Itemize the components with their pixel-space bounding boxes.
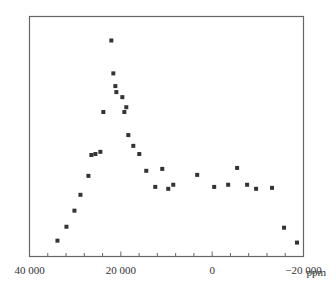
data-point (124, 105, 128, 109)
data-point (212, 185, 216, 189)
data-point (114, 90, 118, 94)
x-tick-label: 0 (209, 264, 215, 276)
data-point (131, 144, 135, 148)
data-point (109, 39, 113, 43)
data-point (93, 152, 97, 156)
data-point (282, 226, 286, 230)
data-point (226, 183, 230, 187)
data-point (270, 186, 274, 190)
data-point (126, 133, 130, 137)
data-point (295, 241, 299, 245)
data-point (144, 169, 148, 173)
data-point (55, 239, 59, 243)
data-point (235, 166, 239, 170)
x-axis-tick-labels: 40 00020 0000−20 000 (14, 264, 322, 276)
scatter-chart: 40 00020 0000−20 000 ppm (0, 0, 335, 302)
data-point (166, 187, 170, 191)
data-point (101, 110, 105, 114)
data-point (78, 193, 82, 197)
data-point (254, 187, 258, 191)
x-tick-label: 40 000 (14, 264, 45, 276)
data-point (86, 174, 90, 178)
data-point (72, 209, 76, 213)
data-point (98, 150, 102, 154)
data-point (113, 84, 117, 88)
x-tick-label: 20 000 (106, 264, 137, 276)
data-point (89, 153, 93, 157)
data-point (111, 71, 115, 75)
data-point (64, 225, 68, 229)
data-point (171, 183, 175, 187)
data-point (137, 152, 141, 156)
data-point (120, 95, 124, 99)
data-point (153, 185, 157, 189)
data-point (245, 183, 249, 187)
plot-frame (30, 17, 304, 257)
data-point (195, 173, 199, 177)
data-point (160, 167, 164, 171)
x-axis-label: ppm (306, 266, 326, 278)
data-point (122, 110, 126, 114)
